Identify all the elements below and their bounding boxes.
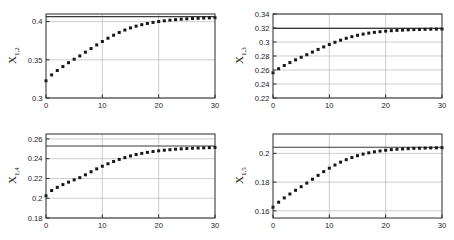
- y-axis-label-symbol: X: [5, 176, 17, 184]
- y-tick-label: 0.24: [255, 80, 270, 89]
- data-point: [345, 158, 348, 161]
- data-point: [328, 167, 331, 170]
- data-point: [328, 43, 331, 46]
- x-tick-label: 30: [211, 221, 219, 230]
- data-point: [135, 153, 138, 156]
- data-point: [339, 161, 342, 164]
- y-axis-label: X1,5: [229, 166, 251, 186]
- data-point: [300, 185, 303, 188]
- data-point: [163, 149, 166, 152]
- data-point: [418, 28, 421, 31]
- axis-frame: [273, 134, 442, 218]
- data-point: [78, 176, 81, 179]
- data-point: [395, 148, 398, 151]
- y-tick-label: 0.34: [255, 10, 270, 19]
- data-point: [362, 33, 365, 36]
- data-point: [78, 54, 81, 57]
- data-point: [101, 40, 104, 43]
- data-point: [202, 146, 205, 149]
- y-tick-label: 0.3: [259, 38, 270, 47]
- data-point: [180, 18, 183, 21]
- data-point: [288, 61, 291, 64]
- data-point: [322, 170, 325, 173]
- y-tick-label: 0.2: [259, 149, 270, 158]
- data-point: [208, 146, 211, 149]
- data-point: [373, 31, 376, 34]
- data-point: [435, 146, 438, 149]
- data-point: [322, 45, 325, 48]
- data-point: [350, 35, 353, 38]
- data-point: [379, 149, 382, 152]
- data-point: [163, 19, 166, 22]
- y-axis-label-subscript: 1,4: [13, 168, 21, 177]
- data-point: [157, 149, 160, 152]
- x-tick-label: 20: [154, 221, 162, 230]
- data-point: [168, 148, 171, 151]
- panel-x13: 0.220.240.260.280.30.320.340102030X1,3: [227, 4, 454, 120]
- data-point: [106, 37, 109, 40]
- x-tick-label: 30: [438, 221, 446, 230]
- data-point: [168, 19, 171, 22]
- data-point: [185, 147, 188, 150]
- x-tick-label: 10: [98, 101, 106, 110]
- data-point: [135, 25, 138, 28]
- data-point: [277, 67, 280, 70]
- data-point: [185, 17, 188, 20]
- x-tick-label: 0: [271, 101, 275, 110]
- data-point: [390, 29, 393, 32]
- data-point: [146, 151, 149, 154]
- y-axis-label-symbol: X: [232, 176, 244, 184]
- x-tick-label: 20: [381, 221, 389, 230]
- data-point: [56, 186, 59, 189]
- y-axis-label-symbol: X: [5, 56, 17, 64]
- panel-x12: 0.30.350.40102030X1,2: [0, 4, 227, 120]
- data-point: [339, 39, 342, 42]
- panel-x14: 0.180.20.220.240.260102030X1,4: [0, 124, 227, 240]
- data-series: [45, 16, 217, 82]
- data-point: [180, 147, 183, 150]
- data-point: [288, 193, 291, 196]
- data-point: [333, 41, 336, 44]
- x-tick-label: 20: [381, 101, 389, 110]
- y-tick-label: 0.2: [32, 194, 43, 203]
- x-tick-label: 0: [44, 221, 48, 230]
- data-point: [424, 147, 427, 150]
- data-point: [283, 196, 286, 199]
- data-point: [112, 34, 115, 37]
- y-tick-label: 0.18: [255, 178, 270, 187]
- data-point: [429, 28, 432, 31]
- data-point: [67, 61, 70, 64]
- data-point: [95, 167, 98, 170]
- data-point: [401, 147, 404, 150]
- data-point: [84, 173, 87, 176]
- y-axis-label-subscript: 1,5: [240, 168, 248, 177]
- panel-x14-svg: 0.180.20.220.240.260102030: [0, 124, 227, 240]
- x-tick-label: 10: [98, 221, 106, 230]
- panel-x13-svg: 0.220.240.260.280.30.320.340102030: [227, 4, 454, 120]
- x-tick-label: 0: [271, 221, 275, 230]
- data-point: [123, 29, 126, 32]
- data-point: [395, 29, 398, 32]
- data-point: [317, 174, 320, 177]
- data-point: [50, 189, 53, 192]
- data-point: [129, 26, 132, 29]
- data-point: [197, 17, 200, 20]
- data-point: [356, 154, 359, 157]
- data-point: [305, 53, 308, 56]
- data-series: [272, 146, 444, 209]
- data-point: [129, 154, 132, 157]
- panel-x15: 0.160.180.20102030X1,5: [227, 124, 454, 240]
- data-point: [305, 182, 308, 185]
- y-tick-label: 0.24: [28, 154, 43, 163]
- y-tick-label: 0.18: [28, 214, 43, 223]
- data-point: [73, 178, 76, 181]
- data-point: [379, 30, 382, 33]
- data-point: [174, 148, 177, 151]
- data-point: [367, 32, 370, 35]
- data-point: [311, 178, 314, 181]
- data-point: [61, 183, 64, 186]
- data-point: [152, 21, 155, 24]
- y-axis-label-subscript: 1,2: [13, 48, 21, 57]
- data-point: [390, 148, 393, 151]
- data-point: [191, 17, 194, 20]
